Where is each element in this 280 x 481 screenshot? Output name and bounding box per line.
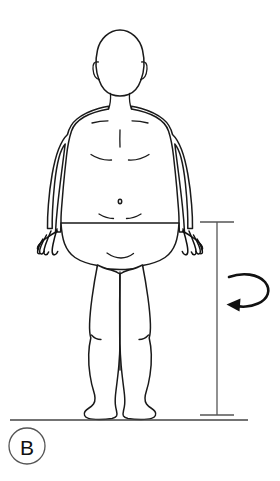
- axial-rotation-arrow: [227, 274, 269, 311]
- right-pectoral-line: [129, 155, 150, 161]
- left-pectoral-line: [91, 155, 112, 161]
- figure-canvas: B: [0, 0, 280, 481]
- left-hand: [37, 229, 57, 255]
- rotation-arrow-head: [227, 299, 241, 312]
- left-clavicle-line: [92, 121, 108, 123]
- right-leg-outline: [120, 265, 156, 419]
- pelvis-outline: [61, 223, 179, 270]
- anatomical-figure-panel: B: [0, 0, 280, 481]
- panel-label-text: B: [20, 436, 34, 459]
- torso-and-arms-outline-right: [132, 106, 193, 232]
- navel: [118, 199, 121, 203]
- right-abdominal-line: [127, 214, 142, 219]
- panel-label-badge: B: [9, 428, 45, 464]
- right-clavicle-line: [132, 121, 148, 123]
- left-abdominal-line: [99, 214, 114, 219]
- human-figure-anterior-view: [37, 30, 202, 419]
- torso-and-arms-outline: [47, 106, 108, 232]
- right-hand: [182, 229, 202, 255]
- vertical-height-dimension-line: [200, 222, 234, 415]
- head-outline: [96, 30, 144, 96]
- left-leg-outline: [84, 265, 120, 419]
